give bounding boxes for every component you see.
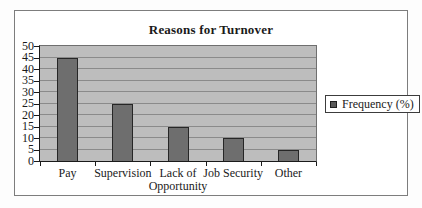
bar-other [278, 150, 299, 162]
gridline-35 [40, 80, 316, 81]
y-axis-label-30: 30 [15, 86, 34, 99]
x-axis-label-other: Other [252, 167, 324, 180]
chart-title: Reasons for Turnover [15, 22, 407, 38]
y-axis-label-0: 0 [15, 155, 34, 168]
y-axis-tick-20 [34, 115, 39, 116]
bar-pay [57, 58, 78, 162]
gridline-20 [40, 114, 316, 115]
bar-lack-of-opportunity [168, 127, 189, 162]
legend-label: Frequency (%) [342, 97, 414, 111]
gridline-40 [40, 68, 316, 69]
y-axis-label-15: 15 [15, 120, 34, 133]
x-axis-tick-0 [40, 162, 41, 166]
y-axis-label-20: 20 [15, 109, 34, 122]
gridline-45 [40, 57, 316, 58]
y-axis-tick-25 [34, 104, 39, 105]
y-axis-tick-10 [34, 138, 39, 139]
figure-reasons-for-turnover: Reasons for Turnover Frequency (%) 05101… [0, 0, 422, 208]
x-axis-tick-5 [316, 162, 317, 166]
y-axis-label-35: 35 [15, 74, 34, 87]
legend-series-marker-icon [330, 101, 337, 108]
gridline-30 [40, 91, 316, 92]
y-axis-tick-35 [34, 81, 39, 82]
y-axis-label-40: 40 [15, 63, 34, 76]
legend: Frequency (%) [325, 95, 420, 113]
y-axis-tick-0 [34, 161, 39, 162]
y-axis-tick-40 [34, 69, 39, 70]
bar-supervision [112, 104, 133, 162]
gridline-25 [40, 103, 316, 104]
y-axis-label-10: 10 [15, 132, 34, 145]
y-axis-tick-30 [34, 92, 39, 93]
y-axis-label-5: 5 [15, 143, 34, 156]
y-axis-tick-5 [34, 150, 39, 151]
bar-job-security [223, 138, 244, 161]
y-axis-tick-45 [34, 58, 39, 59]
y-axis-label-50: 50 [15, 40, 34, 53]
y-axis-tick-50 [34, 46, 39, 47]
chart-frame: Reasons for Turnover Frequency (%) 05101… [14, 10, 408, 196]
plot-area [39, 45, 317, 162]
y-axis-label-25: 25 [15, 97, 34, 110]
y-axis-label-45: 45 [15, 51, 34, 64]
y-axis-tick-15 [34, 127, 39, 128]
